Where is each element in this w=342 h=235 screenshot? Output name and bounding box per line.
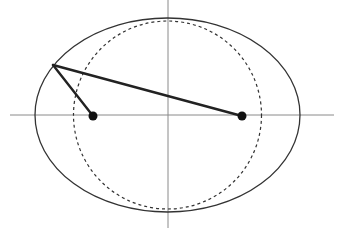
ellipse-diagram: [0, 0, 342, 235]
right-focus-point: [238, 112, 247, 121]
focal-radius-left: [53, 65, 93, 116]
left-focus-point: [89, 112, 98, 121]
focal-radius-right: [53, 65, 242, 116]
